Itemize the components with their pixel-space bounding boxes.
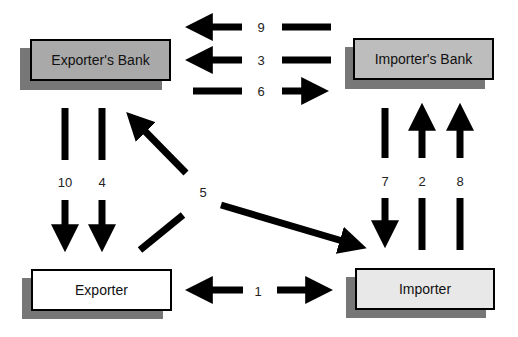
step-label-6: 6 — [257, 84, 264, 99]
step-label-1: 1 — [254, 284, 261, 299]
arrow-5-to-importer — [221, 205, 356, 245]
step-label-5: 5 — [199, 185, 206, 200]
importer-label: Importer — [399, 281, 451, 297]
arrow-5-tail-segment — [140, 215, 183, 250]
exporters-bank-label: Exporter's Bank — [51, 52, 149, 68]
step-label-8: 8 — [456, 174, 463, 189]
step-label-4: 4 — [98, 175, 105, 190]
step-label-3: 3 — [257, 53, 264, 68]
exporters-bank-node: Exporter's Bank — [30, 39, 171, 81]
step-label-9: 9 — [257, 20, 264, 35]
importers-bank-node: Importer's Bank — [353, 38, 494, 80]
step-label-10: 10 — [58, 175, 72, 190]
step-label-2: 2 — [418, 174, 425, 189]
importers-bank-label: Importer's Bank — [375, 51, 473, 67]
exporter-node: Exporter — [31, 269, 172, 311]
exporter-label: Exporter — [75, 282, 128, 298]
step-label-7: 7 — [381, 174, 388, 189]
arrow-5-to-exporters-bank — [134, 120, 186, 173]
importer-node: Importer — [355, 268, 495, 310]
